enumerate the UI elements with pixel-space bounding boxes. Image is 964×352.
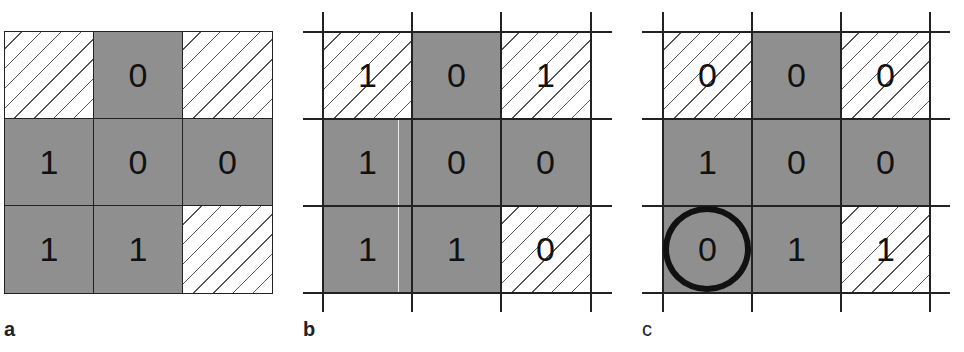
cell-c-r1c2: 0 (752, 32, 841, 119)
cell-c-r2c2: 0 (752, 119, 841, 206)
cell-c-r2c1: 1 (663, 119, 752, 206)
cell-c-r2c3: 0 (841, 119, 930, 206)
cell-c-r1c1: 0 (663, 32, 752, 119)
panel-label-c: c (642, 318, 652, 341)
gridline-b-h2 (303, 118, 612, 120)
gridline-c-v4 (929, 12, 931, 312)
gridline-c-h3 (642, 205, 950, 207)
gridline-b-h3 (303, 205, 612, 207)
cell-c-r1c3: 0 (841, 32, 930, 119)
gridline-b-v4 (590, 12, 592, 312)
gridline-b-h1 (303, 31, 612, 33)
gridline-c-v1 (662, 12, 664, 312)
highlight-circle (663, 206, 751, 292)
gridline-c-h1 (642, 31, 950, 33)
gridline-c-h4 (642, 292, 950, 294)
gridline-c-v2 (751, 12, 753, 312)
gridline-b-v1 (322, 12, 324, 312)
gridline-c-v3 (840, 12, 842, 312)
cell-c-r3c2: 1 (752, 206, 841, 293)
gridline-c-h2 (642, 118, 950, 120)
cell-c-r3c3: 1 (841, 206, 930, 293)
gridline-b-h4 (303, 292, 612, 294)
gridline-b-v2 (411, 12, 413, 312)
grid-b: 1 0 1 1 0 0 1 1 0 (323, 32, 590, 293)
gridline-b-v3 (500, 12, 502, 312)
